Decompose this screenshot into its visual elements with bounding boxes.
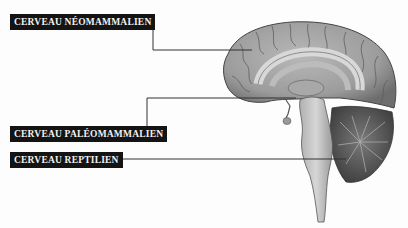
label-reptilien-text: CERVEAU REPTILIEN: [14, 155, 119, 165]
triune-brain-diagram: CERVEAU NÉOMAMMALIEN CERVEAU PALÉOMAMMAL…: [0, 0, 408, 228]
label-neomammalien: CERVEAU NÉOMAMMALIEN: [10, 14, 155, 30]
brain-illustration: [0, 0, 408, 228]
leader-line-paleomammalien: [147, 98, 296, 126]
label-paleomammalien-text: CERVEAU PALÉOMAMMALIEN: [14, 129, 163, 139]
label-reptilien: CERVEAU REPTILIEN: [10, 152, 123, 168]
cerebral-cortex: [224, 22, 396, 108]
cerebellum: [330, 106, 393, 182]
label-neomammalien-text: CERVEAU NÉOMAMMALIEN: [14, 17, 151, 27]
label-paleomammalien: CERVEAU PALÉOMAMMALIEN: [10, 126, 167, 142]
